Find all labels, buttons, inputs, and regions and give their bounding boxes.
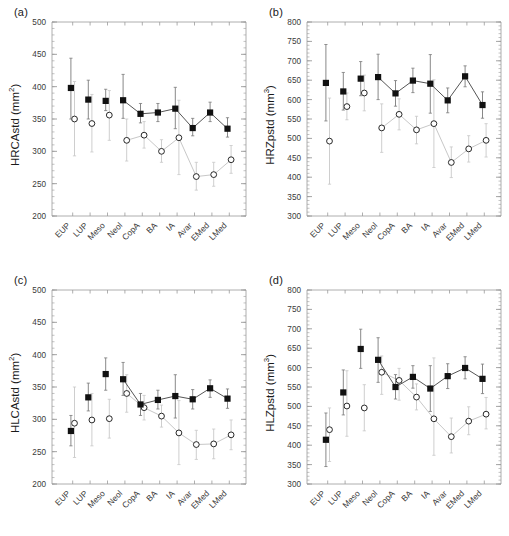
x-tick-label: LMed xyxy=(207,220,229,242)
data-point-open-circle xyxy=(176,430,182,436)
y-tick-label: 500 xyxy=(287,402,301,411)
data-point-open-circle xyxy=(483,411,489,417)
data-point-open-circle xyxy=(483,137,489,143)
data-point-open-circle xyxy=(193,174,199,180)
data-point-filled-square xyxy=(85,394,91,400)
data-point-open-circle xyxy=(211,441,217,447)
y-tick-label: 500 xyxy=(287,134,301,143)
data-point-filled-square xyxy=(375,74,381,80)
data-point-open-circle xyxy=(396,111,402,117)
data-point-open-circle xyxy=(448,434,454,440)
panel-b-plot: 300350400450500550600650700750800EUPLUPM… xyxy=(255,0,509,268)
y-tick-label: 550 xyxy=(287,115,301,124)
error-bar xyxy=(432,358,435,455)
x-tick-label: EMed xyxy=(444,220,467,243)
data-point-filled-square xyxy=(427,81,433,87)
data-point-filled-square xyxy=(85,97,91,103)
x-tick-label: EUP xyxy=(53,488,73,508)
panel-c: (c) HLCAstd (mm2) 200250300350400450500E… xyxy=(0,268,254,536)
panel-a: (a) HRCAstd (mm2) 200250300350400450500E… xyxy=(0,0,254,268)
x-tick-label: BA xyxy=(144,488,159,503)
data-point-filled-square xyxy=(392,90,398,96)
data-point-filled-square xyxy=(103,371,109,377)
y-tick-label: 400 xyxy=(32,83,46,92)
x-tick-label: EMed xyxy=(189,488,212,511)
y-tick-label: 300 xyxy=(32,415,46,424)
data-point-filled-square xyxy=(190,396,196,402)
y-tick-label: 450 xyxy=(32,318,46,327)
y-tick-label: 300 xyxy=(287,212,301,221)
data-point-open-circle xyxy=(327,138,333,144)
data-point-filled-square xyxy=(358,346,364,352)
data-point-filled-square xyxy=(410,77,416,83)
error-bar xyxy=(328,408,331,462)
data-point-open-circle xyxy=(414,394,420,400)
y-tick-label: 300 xyxy=(32,147,46,156)
data-point-open-circle xyxy=(344,104,350,110)
data-point-filled-square xyxy=(224,126,230,132)
x-tick-label: Meso xyxy=(85,488,107,510)
x-tick-label: CopA xyxy=(120,220,142,242)
data-point-open-circle xyxy=(379,369,385,375)
panel-b: (b) HRZpstd (mm3) 3003504004505005506006… xyxy=(255,0,509,268)
data-point-filled-square xyxy=(190,125,196,131)
x-tick-label: Meso xyxy=(340,488,362,510)
y-tick-label: 350 xyxy=(32,115,46,124)
x-tick-label: EMed xyxy=(444,488,467,511)
data-point-filled-square xyxy=(462,365,468,371)
data-point-open-circle xyxy=(327,427,333,433)
data-point-open-circle xyxy=(159,413,165,419)
data-point-open-circle xyxy=(159,148,165,154)
y-tick-label: 400 xyxy=(287,441,301,450)
data-point-open-circle xyxy=(106,112,112,118)
y-tick-label: 200 xyxy=(32,212,46,221)
y-tick-label: 650 xyxy=(287,76,301,85)
y-tick-label: 350 xyxy=(287,193,301,202)
data-point-filled-square xyxy=(323,437,329,443)
data-point-open-circle xyxy=(89,121,95,127)
x-tick-label: BA xyxy=(399,488,414,503)
y-tick-label: 600 xyxy=(287,96,301,105)
y-tick-label: 600 xyxy=(287,364,301,373)
x-tick-label: EUP xyxy=(308,488,328,508)
data-point-filled-square xyxy=(207,385,213,391)
data-point-open-circle xyxy=(361,405,367,411)
data-point-filled-square xyxy=(462,73,468,79)
data-point-filled-square xyxy=(340,389,346,395)
x-tick-label: CopA xyxy=(375,220,397,242)
data-point-filled-square xyxy=(410,374,416,380)
data-point-filled-square xyxy=(137,111,143,117)
data-point-open-circle xyxy=(344,403,350,409)
x-tick-label: BA xyxy=(399,220,414,235)
figure-container: (a) HRCAstd (mm2) 200250300350400450500E… xyxy=(0,0,509,536)
data-point-filled-square xyxy=(445,373,451,379)
data-point-open-circle xyxy=(106,416,112,422)
y-tick-label: 350 xyxy=(32,383,46,392)
data-point-filled-square xyxy=(172,393,178,399)
y-tick-label: 300 xyxy=(287,480,301,489)
y-tick-label: 350 xyxy=(287,461,301,470)
data-point-open-circle xyxy=(228,432,234,438)
data-point-open-circle xyxy=(448,160,454,166)
panel-d: (d) HLZpstd (mm3) 3003504004505005506006… xyxy=(255,268,509,536)
data-point-open-circle xyxy=(396,378,402,384)
x-tick-label: EUP xyxy=(53,220,73,240)
y-tick-label: 700 xyxy=(287,57,301,66)
data-point-filled-square xyxy=(479,102,485,108)
data-point-open-circle xyxy=(193,442,199,448)
y-tick-label: 500 xyxy=(32,286,46,295)
y-tick-label: 250 xyxy=(32,448,46,457)
y-tick-label: 450 xyxy=(32,50,46,59)
data-point-open-circle xyxy=(141,132,147,138)
data-point-open-circle xyxy=(466,146,472,152)
y-tick-label: 200 xyxy=(32,480,46,489)
error-bar xyxy=(122,74,125,118)
panel-c-plot: 200250300350400450500EUPLUPMesoNeolCopAB… xyxy=(0,268,254,536)
x-tick-label: Meso xyxy=(340,220,362,242)
data-point-filled-square xyxy=(120,376,126,382)
data-point-filled-square xyxy=(120,97,126,103)
y-tick-label: 750 xyxy=(287,37,301,46)
data-point-open-circle xyxy=(361,90,367,96)
x-tick-label: Meso xyxy=(85,220,107,242)
y-tick-label: 400 xyxy=(287,173,301,182)
